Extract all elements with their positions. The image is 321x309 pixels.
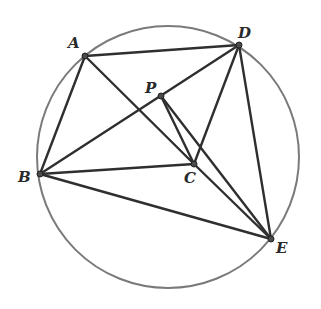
segments <box>40 45 271 239</box>
segment-PE <box>161 96 271 239</box>
circumcircle <box>37 26 299 288</box>
label-A: A <box>66 34 80 52</box>
point-labels: A D P B C E <box>17 24 288 257</box>
segment-BD <box>40 45 239 174</box>
segment-AD <box>85 45 239 56</box>
label-P: P <box>144 79 157 97</box>
segment-AB <box>40 56 85 174</box>
point-E <box>268 236 274 242</box>
point-B <box>37 171 43 177</box>
label-B: B <box>17 168 31 186</box>
label-C: C <box>184 169 196 187</box>
label-D: D <box>237 24 251 42</box>
point-P <box>158 93 164 99</box>
point-C <box>191 161 197 167</box>
segment-PC <box>161 96 194 164</box>
point-D <box>236 42 242 48</box>
point-A <box>82 53 88 59</box>
label-E: E <box>275 239 288 257</box>
segment-BC <box>40 164 194 174</box>
segment-DE <box>239 45 271 239</box>
points <box>37 42 274 242</box>
geometry-diagram: A D P B C E <box>0 0 321 309</box>
